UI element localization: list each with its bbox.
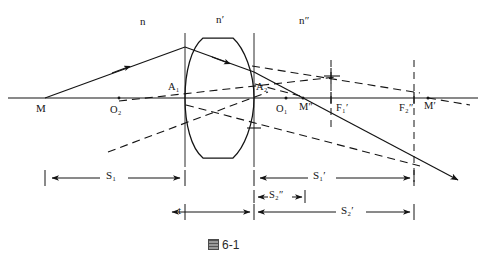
label-point-A1: A₁: [168, 82, 180, 93]
incident-ray-arrow: [112, 67, 128, 73]
virtual-ray-upper-right: [252, 66, 420, 93]
diagram-canvas: [0, 0, 486, 265]
solid-ray-paths: [45, 47, 458, 180]
exit-ray-segment: [254, 72, 458, 180]
point-dot-O1: [285, 97, 288, 100]
label-medium-n: n: [140, 16, 146, 27]
label-dimension-S1: S₁: [106, 170, 116, 181]
virtual-ray-lower-right: [186, 105, 420, 166]
focal-plane-lines: [331, 60, 414, 182]
book-square-icon: [208, 239, 219, 250]
figure-caption: 6-1: [208, 238, 239, 252]
label-dimension-t: t: [178, 205, 181, 216]
label-point-A2: A₂: [256, 82, 268, 93]
label-point-M-double-prime: M″: [299, 102, 313, 113]
optical-diagram-figure: n n′ n″ M O₂ A₁ A₂ O₁ M″ F₁′ F₂″ M′ S₁ S…: [0, 0, 486, 265]
label-medium-n-double-prime: n″: [299, 15, 309, 26]
label-dimension-S2-double-prime: S₂″: [269, 190, 283, 201]
label-point-O2: O₂: [110, 105, 122, 116]
label-point-O1: O₁: [276, 104, 288, 115]
label-point-M: M: [36, 103, 46, 114]
figure-caption-text: 6-1: [222, 238, 239, 252]
label-point-F1-prime: F₁′: [336, 103, 348, 114]
label-point-M-prime: M′: [424, 101, 436, 112]
label-point-F2-double-prime: F₂″: [399, 103, 413, 114]
label-dimension-S2-prime: S₂′: [341, 205, 354, 216]
dashed-construction-rays: [108, 66, 470, 166]
label-medium-n-prime: n′: [216, 14, 224, 25]
point-dot-O2: [118, 97, 121, 100]
dimension-lines-group: [45, 170, 414, 220]
label-dimension-S1-prime: S₁′: [313, 170, 326, 181]
internal-ray-arrow: [212, 57, 228, 63]
